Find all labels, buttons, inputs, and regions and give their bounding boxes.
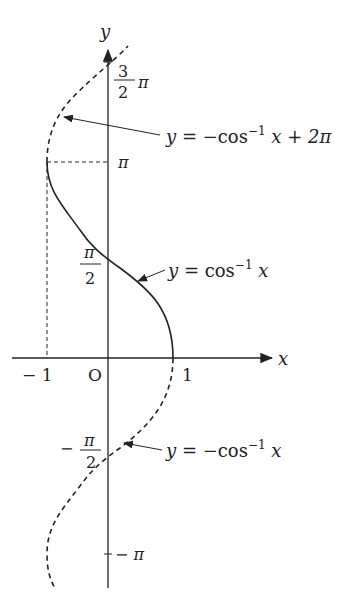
tick-3-2-den: 2 (118, 83, 128, 102)
label-neg-arccos-plus-2pi: y = −cos−1 x + 2π (165, 124, 332, 147)
tick-3-2-pi: π (137, 73, 149, 92)
y-axis-label: y (99, 21, 111, 42)
x-axis-label: x (278, 348, 288, 369)
tick-3-2-num: 3 (118, 62, 128, 81)
label-arccos: y = cos−1 x (167, 258, 268, 281)
inverse-cosine-graph: y x O − 1 1 3 2 π π π 2 − π 2 − π y = −c… (0, 0, 350, 609)
origin-label: O (88, 365, 102, 385)
tick-x-minus1: − 1 (22, 365, 52, 385)
tick-x-1: 1 (182, 365, 193, 385)
tick-neg-pi: − π (115, 545, 144, 564)
curve-arccos (47, 162, 173, 358)
curve-neg-arccos-plus-2pi (47, 46, 128, 162)
tick-pi-2-den: 2 (85, 269, 95, 288)
tick-pi-2-num: π (83, 243, 95, 262)
tick-neg-pi-2-sign: − (60, 439, 73, 458)
curve-neg-arccos (47, 358, 173, 590)
label-neg-arccos: y = −cos−1 x (165, 438, 282, 461)
tick-pi: π (117, 153, 129, 172)
tick-neg-pi-2-num: π (83, 431, 95, 450)
tick-neg-pi-2-den: 2 (86, 453, 96, 472)
